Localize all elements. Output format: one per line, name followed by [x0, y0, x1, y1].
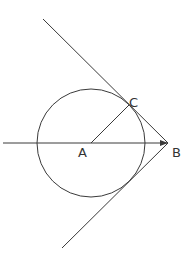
- radius-AC: [91, 105, 129, 143]
- upper-tangent-line: [43, 19, 168, 143]
- label-C: C: [129, 95, 138, 110]
- tangent-diagram: A B C: [0, 0, 194, 258]
- label-B: B: [172, 145, 181, 160]
- label-A: A: [78, 145, 87, 160]
